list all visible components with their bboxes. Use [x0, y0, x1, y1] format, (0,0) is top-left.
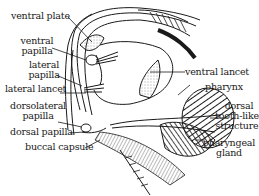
label-dorsal-tooth-line3: structure	[214, 121, 259, 131]
label-lateral-lancet: lateral lancet	[5, 84, 66, 94]
label-ventral-plate: ventral plate	[11, 11, 70, 21]
label-ventral-lancet: ventral lancet	[185, 67, 249, 77]
label-dorsolateral-papilla-line2: papilla	[10, 111, 66, 121]
capsule-outline	[65, 8, 200, 135]
label-pharyngeal-gland-line2: gland	[202, 148, 256, 158]
buccal-capsule-diagram	[0, 0, 259, 196]
label-ventral-papilla-line2: papilla	[20, 46, 54, 56]
label-buccal-capsule: buccal capsule	[25, 142, 93, 152]
label-lateral-papilla-line2: papilla	[28, 70, 60, 80]
label-pharynx: pharynx	[205, 82, 243, 92]
label-dorsal-papilla: dorsal papilla	[10, 127, 73, 137]
